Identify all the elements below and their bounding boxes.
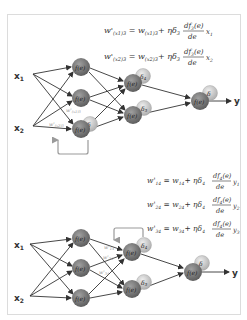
output-node: f(e) — [191, 92, 209, 110]
output-y-label: y — [234, 96, 240, 106]
edges-hidden2-to-output — [142, 85, 231, 114]
svg-text:f(e): f(e) — [125, 286, 137, 294]
edges-input-to-hidden1 — [33, 67, 73, 129]
input-x1-label: x1 — [14, 240, 24, 251]
svg-text:f(e): f(e) — [74, 295, 86, 303]
svg-text:w'34 = w34+ ηδ4: w'34 = w34+ ηδ4 — [147, 224, 205, 234]
hidden2-node: f(e) — [123, 243, 141, 261]
svg-text:y2: y2 — [232, 202, 240, 211]
svg-text:x1: x1 — [206, 28, 213, 37]
svg-text:f(e): f(e) — [126, 112, 138, 120]
svg-text:w'(x1)3 = w(x1)3+ ηδ3: w'(x1)3 = w(x1)3+ ηδ3 — [104, 26, 180, 36]
svg-text:f(e): f(e) — [125, 249, 137, 257]
svg-text:de: de — [216, 183, 224, 191]
svg-text:f(e): f(e) — [74, 265, 86, 273]
top-equation-2: w'(x2)3 = w(x2)3+ ηδ3 df3(e) de x2 — [104, 48, 213, 67]
hidden1-node: f(e) — [72, 289, 90, 307]
top-network: x1 x2 y w'(x1)3 w'(x2)3 — [14, 22, 240, 154]
input-x2-label: x2 — [14, 123, 24, 134]
svg-text:f(e): f(e) — [193, 98, 205, 106]
hidden1-node: f(e) — [72, 120, 90, 138]
svg-text:f(e): f(e) — [74, 64, 86, 72]
svg-text:y1: y1 — [232, 178, 240, 187]
svg-text:w'14 = w14+ ηδ4: w'14 = w14+ ηδ4 — [147, 176, 205, 186]
hidden1-node: f(e) — [72, 229, 90, 247]
svg-text:w'(x2)3 = w(x2)3+ ηδ3: w'(x2)3 = w(x2)3+ ηδ3 — [104, 52, 180, 62]
svg-text:df4(e): df4(e) — [213, 196, 232, 205]
hidden1-node: f(e) — [72, 259, 90, 277]
svg-text:f(e): f(e) — [126, 80, 138, 88]
bottom-network: x1 x2 y w'14 w'24 w'34 δ4 — [14, 172, 240, 307]
feedback-arrow — [114, 228, 143, 240]
bottom-equation-3: w'34 = w34+ ηδ4 df4(e) de y3 — [147, 220, 240, 239]
svg-text:de: de — [188, 59, 197, 67]
weight-label-x1: w'(x1)3 — [66, 107, 82, 114]
bottom-equation-2: w'24 = w24+ ηδ4 df4(e) de y2 — [147, 196, 240, 215]
svg-text:de: de — [216, 231, 224, 239]
weight-label-34: w'34 — [99, 269, 109, 276]
svg-text:f(e): f(e) — [186, 269, 198, 277]
output-y-label: y — [232, 268, 238, 278]
input-x1-label: x1 — [14, 71, 24, 82]
weight-label-x2: w'(x2)3 — [49, 121, 65, 128]
feedback-arrow — [58, 140, 88, 154]
svg-text:f(e): f(e) — [74, 95, 86, 103]
svg-text:f(e): f(e) — [74, 235, 86, 243]
hidden2-node: f(e) — [124, 74, 142, 92]
svg-text:f(e): f(e) — [74, 126, 86, 134]
svg-text:df4(e): df4(e) — [213, 220, 232, 229]
svg-text:df3(e): df3(e) — [184, 48, 204, 57]
input-x2-label: x2 — [14, 293, 24, 304]
hidden1-node: f(e) — [72, 58, 90, 76]
svg-text:de: de — [216, 207, 224, 215]
bottom-equation-1: w'14 = w14+ ηδ4 df4(e) de y1 — [147, 172, 240, 191]
svg-text:y3: y3 — [232, 226, 240, 235]
svg-text:df4(e): df4(e) — [213, 172, 232, 181]
hidden2-node: f(e) — [124, 106, 142, 124]
svg-text:w'24 = w24+ ηδ4: w'24 = w24+ ηδ4 — [147, 200, 205, 210]
top-equation-1: w'(x1)3 = w(x1)3+ ηδ3 df3(e) de x1 — [104, 22, 213, 41]
edges-input-to-hidden1 — [30, 239, 73, 298]
hidden2-node: f(e) — [123, 280, 141, 298]
backprop-diagram: x1 x2 y w'(x1)3 w'(x2)3 — [0, 0, 247, 320]
output-node: f(e) — [184, 263, 202, 281]
svg-text:de: de — [188, 33, 197, 41]
hidden1-node: f(e) — [72, 89, 90, 107]
svg-text:df3(e): df3(e) — [184, 22, 204, 31]
weight-label-24: w'24 — [103, 254, 113, 261]
svg-text:x2: x2 — [206, 54, 213, 63]
delta-label-output: δ — [207, 90, 211, 97]
weight-label-14: w'14 — [104, 244, 114, 251]
